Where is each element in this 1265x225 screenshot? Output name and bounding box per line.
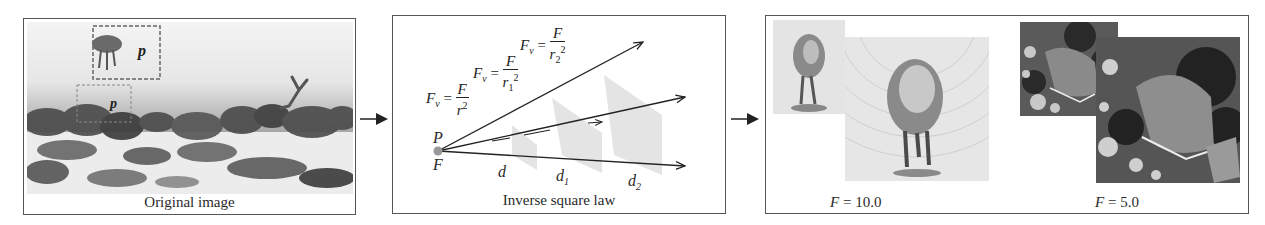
results-panel: F = 10.0 F = 5.0 [765, 15, 1249, 214]
distance-d: d [498, 163, 506, 181]
flow-arrow-icon [360, 112, 388, 126]
source-point [433, 146, 442, 155]
inverse-square-law-panel: P F Fv = F r2 Fv = F r12 Fv = F r22 d d1… [392, 15, 726, 214]
underwater-scene-photo: p p [27, 22, 353, 194]
distance-d2: d2 [628, 172, 641, 192]
formula-r2: Fv = F r22 [520, 26, 565, 67]
flow-arrow-icon [731, 112, 759, 126]
original-image-caption: Original image [24, 194, 355, 211]
result-label-f5: F = 5.0 [1095, 194, 1139, 211]
formula-r1: Fv = F r12 [473, 54, 518, 95]
seabed-large-image [1096, 37, 1240, 183]
marker-p-upper: p [136, 42, 146, 60]
jellyfish-small-image [773, 20, 845, 114]
formula-r: Fv = F r2 [426, 82, 469, 118]
marker-p-lower: p [109, 96, 117, 111]
source-label-p: P [433, 129, 443, 147]
inverse-square-law-caption: Inverse square law [393, 192, 725, 209]
original-image-panel: p p Original image [23, 18, 356, 215]
source-label-f: F [433, 156, 443, 174]
result-label-f10: F = 10.0 [830, 194, 881, 211]
distance-d1: d1 [556, 167, 569, 187]
jellyfish-large-image [845, 37, 989, 181]
